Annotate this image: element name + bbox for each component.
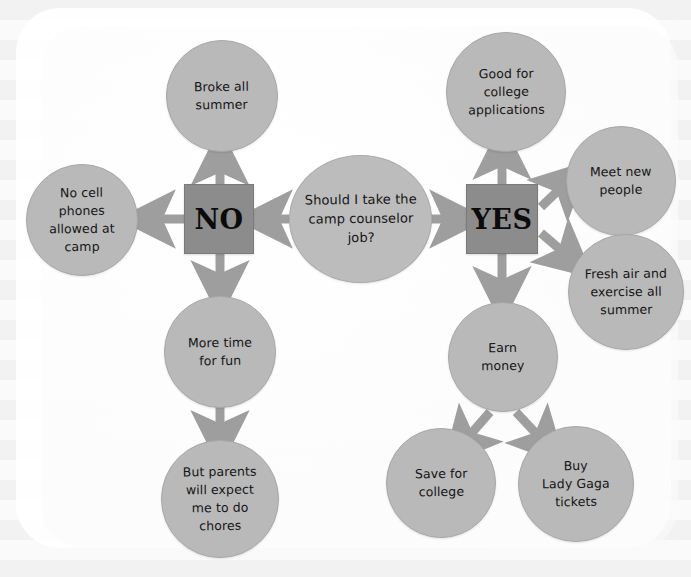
- node-yes[interactable]: YES: [466, 184, 538, 254]
- node-no[interactable]: NO: [184, 184, 254, 254]
- node-buy-lady-gaga-tickets-label: BuyLady Gagatickets: [534, 456, 618, 511]
- node-question[interactable]: Should I take thecamp counselorjob?: [289, 155, 432, 283]
- node-more-time-for-fun[interactable]: More timefor fun: [164, 296, 276, 408]
- node-no-cell-phones[interactable]: No cellphonesallowed atcamp: [26, 164, 138, 276]
- node-save-for-college-label: Save forcollege: [406, 465, 475, 502]
- node-more-time-for-fun-label: More timefor fun: [180, 333, 260, 370]
- node-no-cell-phones-label: No cellphonesallowed atcamp: [41, 183, 123, 256]
- node-buy-lady-gaga-tickets[interactable]: BuyLady Gagatickets: [518, 426, 634, 542]
- node-meet-new-people[interactable]: Meet newpeople: [566, 126, 676, 236]
- node-good-for-college-label: Good forcollegeapplications: [459, 64, 552, 119]
- node-good-for-college[interactable]: Good forcollegeapplications: [446, 32, 566, 152]
- node-broke-all-summer-label: Broke allsummer: [186, 78, 257, 115]
- node-meet-new-people-label: Meet newpeople: [582, 162, 660, 199]
- node-yes-label: YES: [472, 204, 533, 235]
- diagram-canvas: Should I take thecamp counselorjob? NO Y…: [0, 0, 691, 577]
- node-earn-money-label: Earnmoney: [473, 339, 533, 376]
- node-fresh-air-exercise-label: Fresh air andexercise allsummer: [577, 264, 676, 319]
- node-question-label: Should I take thecamp counselorjob?: [296, 190, 425, 248]
- node-fresh-air-exercise[interactable]: Fresh air andexercise allsummer: [568, 234, 684, 350]
- node-but-parents-chores-label: But parentswill expectme to dochores: [175, 462, 266, 535]
- node-earn-money[interactable]: Earnmoney: [448, 302, 558, 412]
- node-broke-all-summer[interactable]: Broke allsummer: [166, 40, 278, 152]
- node-save-for-college[interactable]: Save forcollege: [386, 428, 496, 538]
- node-no-label: NO: [194, 204, 243, 235]
- node-but-parents-chores[interactable]: But parentswill expectme to dochores: [161, 440, 279, 558]
